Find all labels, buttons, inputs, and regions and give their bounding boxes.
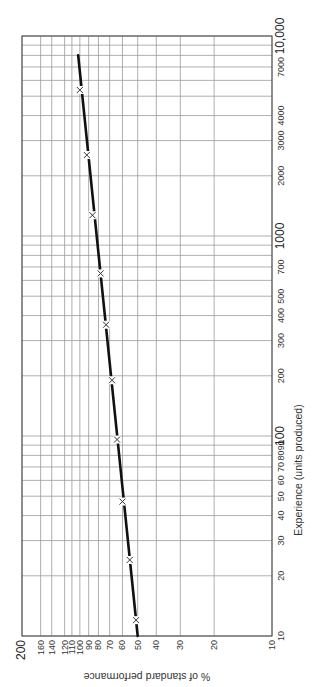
x-tick-label: 300: [276, 333, 286, 348]
y-tick-label: 40: [151, 640, 161, 650]
x-tick-label: 400: [276, 308, 286, 323]
y-tick-label: 90: [84, 640, 94, 650]
x-marker-icon: [108, 376, 116, 384]
x-axis-label: Experience (units produced): [292, 404, 304, 535]
x-tick-label: 70: [276, 462, 286, 472]
x-tick-label: 1000: [273, 222, 287, 249]
grid-lines: [22, 36, 272, 636]
x-marker-icon: [118, 498, 126, 506]
x-tick-label: 700: [276, 259, 286, 274]
fit-line: [78, 55, 137, 636]
x-marker-icon: [102, 321, 110, 329]
x-tick-label: 10: [276, 631, 286, 641]
x-tick-label: 10,000: [273, 17, 287, 54]
x-tick-label: 3000: [276, 131, 286, 151]
x-tick-label: 2000: [276, 166, 286, 186]
x-tick-label: 50: [276, 491, 286, 501]
x-tick-label: 80: [276, 450, 286, 460]
y-tick-label: 60: [117, 640, 127, 650]
y-tick-label: 80: [93, 640, 103, 650]
x-tick-label: 20: [276, 571, 286, 581]
x-tick-label: 30: [276, 536, 286, 546]
y-axis-label: % of standard performance: [84, 671, 211, 683]
x-tick-label: 60: [276, 475, 286, 485]
learning-curve-chart: 2001601401201101009080706050403020101020…: [0, 0, 318, 687]
x-marker-icon: [126, 556, 134, 564]
x-tick-label: 200: [276, 368, 286, 383]
x-marker-icon: [76, 86, 84, 94]
x-tick-label: 4000: [276, 106, 286, 126]
y-tick-label: 70: [105, 640, 115, 650]
y-tick-label: 30: [175, 640, 185, 650]
y-tick-label: 160: [36, 640, 46, 655]
x-marker-icon: [88, 211, 96, 219]
y-tick-label: 140: [47, 640, 57, 655]
y-tick-label: 20: [209, 640, 219, 650]
tick-labels: 2001601401201101009080706050403020101020…: [14, 17, 287, 660]
x-marker-icon: [83, 151, 91, 159]
x-marker-icon: [132, 616, 140, 624]
trend-line: [78, 55, 137, 636]
x-tick-label: 40: [276, 511, 286, 521]
x-tick-label: 500: [276, 289, 286, 304]
y-tick-label: 50: [133, 640, 143, 650]
y-tick-label: 200: [14, 640, 28, 660]
x-marker-icon: [97, 269, 105, 277]
plot-frame: [22, 36, 272, 636]
x-marker-icon: [113, 436, 121, 444]
x-tick-label: 100: [273, 426, 287, 446]
x-tick-label: 7000: [276, 57, 286, 77]
